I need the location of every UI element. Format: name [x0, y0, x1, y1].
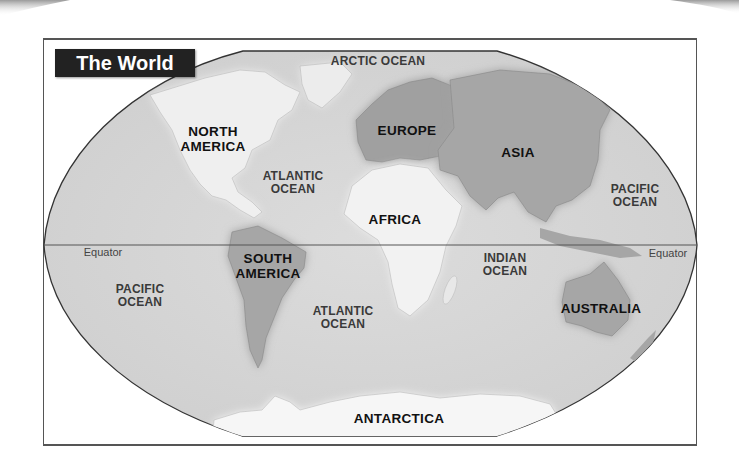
label-south-america: SOUTHAMERICA	[235, 252, 300, 282]
label-indian-ocean: INDIANOCEAN	[483, 252, 527, 278]
label-north-america: NORTHAMERICA	[180, 125, 245, 155]
label-equator-right: Equator	[649, 247, 688, 259]
label-pacific-ocean-west: PACIFICOCEAN	[116, 283, 165, 309]
label-africa: AFRICA	[369, 213, 422, 228]
label-australia: AUSTRALIA	[561, 302, 642, 317]
label-europe: EUROPE	[378, 124, 437, 139]
label-atlantic-ocean-south: ATLANTICOCEAN	[313, 305, 374, 331]
label-pacific-ocean-east: PACIFICOCEAN	[611, 183, 660, 209]
label-arctic-ocean: ARCTIC OCEAN	[331, 55, 425, 68]
label-atlantic-ocean-north: ATLANTICOCEAN	[263, 170, 324, 196]
label-equator-left: Equator	[84, 246, 123, 258]
map-title: The World	[55, 49, 195, 77]
label-asia: ASIA	[501, 146, 534, 161]
label-antarctica: ANTARCTICA	[354, 412, 445, 427]
